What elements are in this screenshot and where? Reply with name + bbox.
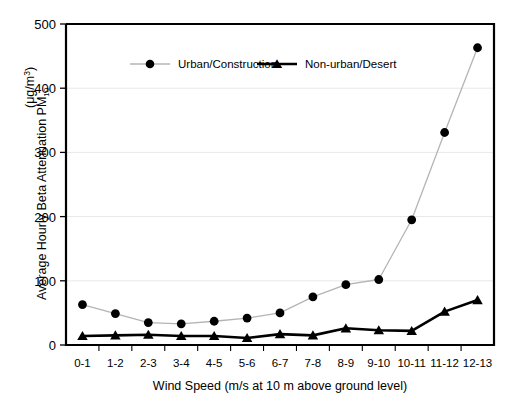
data-point-marker [78, 300, 87, 309]
data-point-marker [341, 280, 350, 289]
x-tick-label: 2-3 [140, 357, 157, 369]
data-point-marker [111, 309, 120, 318]
data-point-marker [309, 292, 318, 301]
data-point-marker [407, 215, 416, 224]
y-axis-title-subscript: 10 [42, 87, 51, 96]
x-tick-label: 6-7 [272, 357, 289, 369]
data-point-marker [473, 43, 482, 52]
line-chart-svg: 0100200300400500 0-11-22-33-44-55-66-77-… [0, 0, 511, 409]
y-axis-units-mu: μg/m [23, 76, 37, 104]
data-point-marker [276, 309, 285, 318]
y-tick-label: 0 [49, 338, 56, 353]
x-tick-label: 12-13 [463, 357, 492, 369]
x-axis-title: Wind Speed (m/s at 10 m above ground lev… [153, 379, 407, 393]
x-tick-label: 5-6 [239, 357, 256, 369]
data-point-marker [440, 128, 449, 137]
x-tick-label: 8-9 [338, 357, 355, 369]
x-tick-label: 4-5 [206, 357, 223, 369]
data-point-marker [144, 318, 153, 327]
x-tick-label: 0-1 [74, 357, 91, 369]
x-tick-label: 11-12 [430, 357, 459, 369]
y-axis-units-close: ) [23, 67, 37, 71]
svg-text:Average Hourly Beta Attenuatio: Average Hourly Beta Attenuation PM10 [35, 87, 51, 300]
x-tick-label: 3-4 [173, 357, 190, 369]
y-tick-label: 500 [34, 17, 56, 32]
legend-label-non-urban-desert: Non-urban/Desert [305, 58, 397, 70]
data-point-marker [243, 314, 252, 323]
x-tick-label: 1-2 [107, 357, 124, 369]
x-tick-label: 7-8 [305, 357, 322, 369]
chart-figure: 0100200300400500 0-11-22-33-44-55-66-77-… [0, 0, 511, 409]
x-tick-label: 9-10 [367, 357, 390, 369]
y-axis-title-main: Average Hourly Beta Attenuation PM [35, 97, 49, 300]
legend-marker-urban-construction [146, 60, 155, 69]
data-point-marker [177, 319, 186, 328]
x-tick-label: 10-11 [397, 357, 426, 369]
data-point-marker [210, 317, 219, 326]
data-point-marker [374, 275, 383, 284]
